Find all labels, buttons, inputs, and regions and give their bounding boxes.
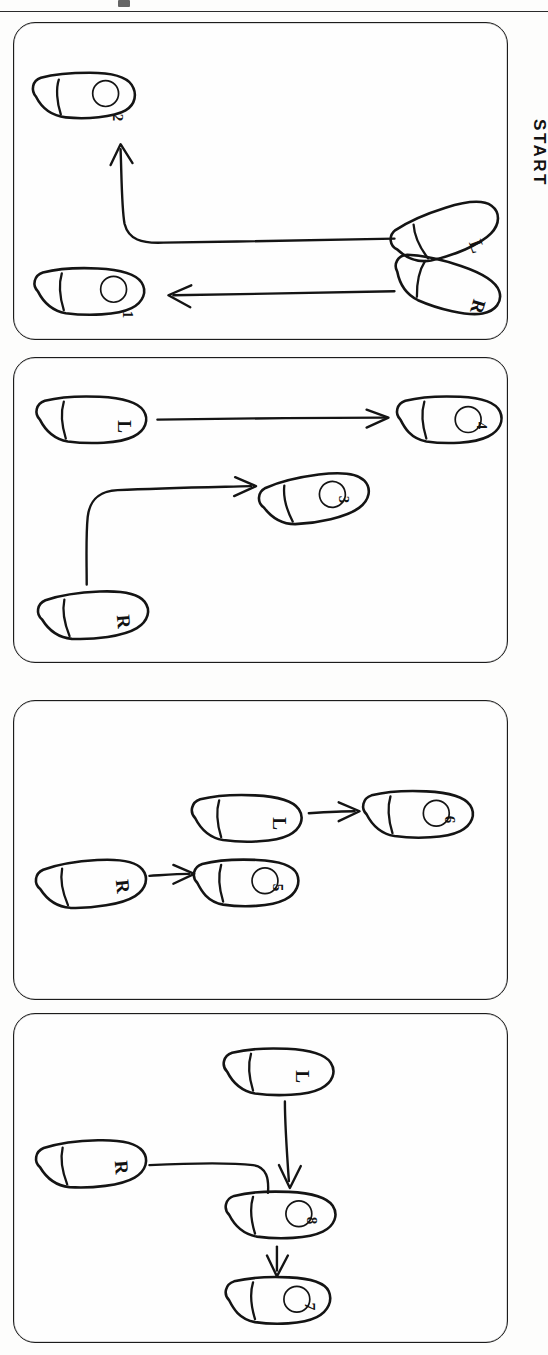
- foot-2-number: 2: [109, 114, 126, 122]
- foot-7-shape: [226, 1277, 331, 1324]
- foot-3-number: 3: [335, 496, 352, 504]
- panel-4-stage: L R 8 7: [14, 1014, 507, 1342]
- running-head-fragment: [118, 0, 130, 7]
- left-foot-path-ink: [157, 410, 388, 428]
- right-foot-path-ink: [86, 477, 256, 584]
- foot-6-number: 6: [441, 816, 458, 824]
- panel-2-ink: [14, 358, 507, 662]
- panel-1-stage: START L R 2 1: [14, 23, 507, 339]
- right-foot-path-ink: [149, 1164, 268, 1193]
- panel-2-stage: L 4 3 R: [14, 358, 507, 662]
- foot-4-number: 4: [473, 422, 490, 430]
- right-foot-path-ink: [149, 865, 194, 884]
- step-path-8-to-7-ink: [267, 1247, 288, 1277]
- foot-4-shape: [397, 396, 502, 443]
- foot-1-number: 1: [119, 311, 136, 319]
- foot-6-shape: [363, 791, 473, 838]
- footwork-panel-3: L 6 R 5: [13, 700, 508, 1000]
- panel-2-left-foot-letter: L: [113, 420, 135, 434]
- foot-8-number: 8: [303, 1217, 320, 1225]
- left-foot-shape: [224, 1049, 334, 1096]
- panel-4-right-foot-letter: R: [110, 1160, 133, 1176]
- panel-3-right-foot-letter: R: [111, 879, 134, 896]
- panel-4-left-foot-letter: L: [291, 1070, 313, 1084]
- panel-4-ink: [14, 1014, 507, 1342]
- footwork-panel-2: L 4 3 R: [13, 357, 508, 663]
- foot-2-shape: [33, 73, 135, 118]
- foot-8-shape: [226, 1192, 336, 1239]
- left-foot-path-ink: [309, 802, 360, 821]
- foot-5-number: 5: [269, 884, 286, 892]
- start-label: START: [529, 119, 548, 187]
- foot-7-number: 7: [301, 1303, 318, 1311]
- page-header-rule: [0, 11, 548, 12]
- diagram-sheet: START L R 2 1: [0, 0, 548, 1355]
- foot-1-shape: [34, 268, 144, 315]
- start-right-foot-shape: [387, 248, 505, 323]
- left-foot-path-ink: [279, 1101, 301, 1187]
- footwork-panel-4: L R 8 7: [13, 1013, 508, 1343]
- panel-3-stage: L 6 R 5: [14, 701, 507, 999]
- panel-2-right-foot-letter: R: [112, 614, 135, 631]
- panel-3-left-foot-letter: L: [268, 817, 290, 831]
- footwork-panel-1: START L R 2 1: [13, 22, 508, 340]
- right-foot-path-ink: [168, 285, 394, 307]
- panel-1-ink: [14, 23, 507, 339]
- foot-3-shape: [257, 466, 373, 531]
- left-foot-path-ink: [111, 144, 395, 243]
- panel-3-ink: [14, 701, 507, 999]
